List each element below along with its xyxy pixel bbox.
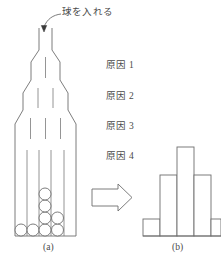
ball [39, 188, 51, 200]
ball [52, 212, 64, 224]
histogram-bar [194, 175, 211, 236]
ball [52, 224, 64, 236]
caption-panel-a: (a) [43, 242, 54, 252]
histogram-bar [177, 147, 194, 236]
insert-ball-arrow [41, 14, 61, 32]
ball [39, 200, 51, 212]
ball [15, 224, 27, 236]
histogram-bar [143, 219, 160, 236]
histogram-bar [211, 219, 221, 236]
cause-label-1: 原因 1 [106, 61, 134, 71]
figure-root: 球を入れる 原因 1 原因 2 原因 3 原因 4 (a) (b) [0, 0, 221, 259]
cause-label-3: 原因 3 [106, 122, 134, 132]
transform-arrow [92, 184, 132, 211]
ball [27, 224, 39, 236]
histogram-bar [160, 175, 177, 236]
caption-panel-b: (b) [172, 242, 183, 252]
cause-label-2: 原因 2 [106, 92, 134, 102]
ball [39, 212, 51, 224]
cause-label-4: 原因 4 [106, 152, 134, 162]
insert-ball-note: 球を入れる [62, 8, 113, 18]
ball [39, 224, 51, 236]
histogram [143, 147, 221, 236]
